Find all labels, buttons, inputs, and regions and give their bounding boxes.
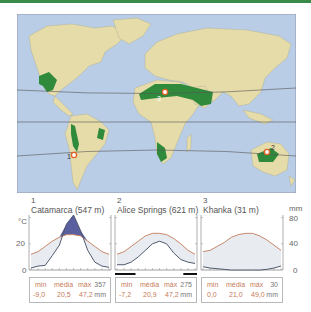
avg-value: 20,9 <box>143 291 157 298</box>
avg-label: média <box>140 281 159 288</box>
avg-value: 20,5 <box>57 291 71 298</box>
min-value: 0,0 <box>207 291 217 298</box>
climate-charts <box>0 0 311 312</box>
frost-period-bar <box>115 273 136 275</box>
precip-unit: mm <box>266 291 278 298</box>
max-value: 47,2 <box>79 291 93 298</box>
dry-period-area <box>203 233 281 270</box>
max-label: máx <box>78 281 91 288</box>
frost-period-bar <box>183 273 197 275</box>
station-1-stats: min média máx 357 -9,0 20,5 47,2 mm <box>29 277 111 303</box>
max-label: máx <box>250 281 263 288</box>
avg-value: 21,0 <box>229 291 243 298</box>
max-label: máx <box>164 281 177 288</box>
min-label: min <box>207 281 218 288</box>
station-2-stats: min média máx 275 -7,2 20,9 47,2 mm <box>115 277 197 303</box>
avg-label: média <box>54 281 73 288</box>
station-3-stats: min média máx 30 0,0 21,0 49,0 mm <box>201 277 283 303</box>
precip-unit: mm <box>94 291 106 298</box>
avg-label: média <box>226 281 245 288</box>
max-value: 47,2 <box>165 291 179 298</box>
max-value: 49,0 <box>251 291 265 298</box>
min-value: -9,0 <box>33 291 45 298</box>
precip-unit: mm <box>180 291 192 298</box>
precip-total: 275 <box>180 281 192 288</box>
precip-total: 30 <box>270 281 278 288</box>
precip-total: 357 <box>94 281 106 288</box>
min-label: min <box>121 281 132 288</box>
min-label: min <box>35 281 46 288</box>
min-value: -7,2 <box>119 291 131 298</box>
